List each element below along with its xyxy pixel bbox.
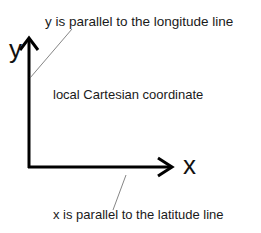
y-axis-label: y [9, 36, 22, 62]
axes-graphic [0, 0, 261, 233]
diagram-title: local Cartesian coordinate [53, 88, 203, 101]
y-annotation-text: y is parallel to the longitude line [45, 15, 233, 29]
x-annotation-text: x is parallel to the latitude line [53, 208, 224, 221]
x-annotation-leader [113, 175, 126, 210]
coordinate-diagram: y x y is parallel to the longitude line … [0, 0, 261, 233]
x-axis-label: x [183, 152, 196, 178]
y-annotation-leader [30, 29, 72, 78]
